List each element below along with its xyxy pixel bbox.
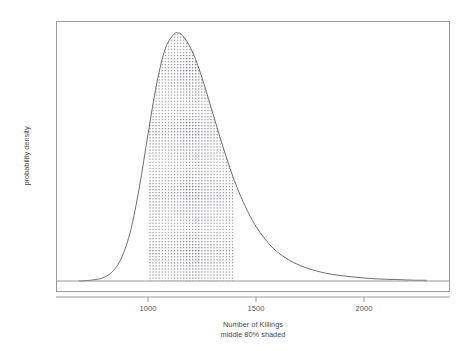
x-axis-subtitle: middle 80% shaded [221, 330, 286, 339]
chart-canvas: 100015002000 Number of Killings middle 8… [0, 0, 472, 351]
density-plot-figure: 100015002000 Number of Killings middle 8… [0, 0, 472, 351]
x-tick-label: 1000 [140, 304, 157, 313]
figure-background [0, 0, 472, 351]
x-tick-label: 1500 [248, 304, 265, 313]
y-axis-title: probability density [22, 126, 31, 185]
x-tick-label: 2000 [356, 304, 373, 313]
x-axis-title: Number of Killings [223, 320, 283, 329]
